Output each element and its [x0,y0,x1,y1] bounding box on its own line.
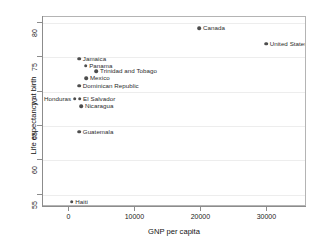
gridline-y-55 [43,195,305,196]
scatter-chart: CanadaUnited StatesJamaicaPanamaTrinidad… [0,0,316,249]
x-tick-10000 [134,207,135,211]
data-point-label: Nicaragua [85,103,114,109]
gridline-y-60 [43,160,305,161]
data-point-marker[interactable] [78,97,82,101]
gridline-y-70 [43,92,305,93]
x-tick-label-30000: 30000 [257,213,276,220]
data-point-marker[interactable] [77,84,81,88]
data-point-marker[interactable] [95,69,99,73]
data-point-marker[interactable] [84,64,88,68]
data-point-label: Dominican Republic [83,82,139,88]
data-point-marker[interactable] [85,76,89,80]
y-tick-70 [37,91,42,92]
x-tick-label-10000: 10000 [125,213,144,220]
data-point-label: Honduras [44,96,71,102]
y-axis-line [42,16,43,206]
y-tick-75 [37,56,42,57]
data-point-label: El Salvador [83,96,115,102]
x-axis-title: GNP per capita [42,227,306,236]
y-tick-60 [37,159,42,160]
data-point-label: Mexico [90,75,110,81]
y-tick-55 [37,194,42,195]
y-tick-65 [37,125,42,126]
data-point-marker[interactable] [70,200,74,204]
data-point-label: Haiti [75,198,88,204]
data-point-marker[interactable] [198,26,202,30]
x-tick-label-20000: 20000 [191,213,210,220]
data-point-marker[interactable] [264,42,268,46]
data-point-label: Canada [203,25,225,31]
gridline-y-80 [43,23,305,24]
y-tick-80 [37,22,42,23]
plot-area: CanadaUnited StatesJamaicaPanamaTrinidad… [42,16,306,206]
x-tick-20000 [200,207,201,211]
data-point-marker[interactable] [73,97,77,101]
x-tick-30000 [266,207,267,211]
data-point-marker[interactable] [79,104,83,108]
data-point-marker[interactable] [77,130,81,134]
x-tick-0 [68,207,69,211]
data-point-label: United States [270,41,306,47]
data-point-marker[interactable] [77,57,81,61]
x-tick-label-0: 0 [66,213,70,220]
y-axis-title: Life expectancy at birth [29,21,38,211]
data-point-label: Guatemala [83,128,114,134]
